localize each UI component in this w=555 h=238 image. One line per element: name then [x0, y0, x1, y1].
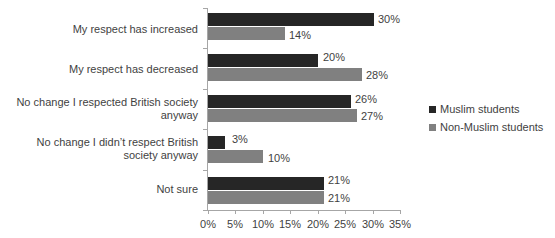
bar-nonmuslim-2	[208, 109, 357, 122]
y-axis-tick	[203, 210, 207, 211]
bar-nonmuslim-1	[208, 68, 362, 81]
x-axis-tick	[263, 210, 264, 214]
x-axis-tick-label-1: 5%	[227, 218, 243, 230]
x-axis-tick	[290, 210, 291, 214]
plot-area: 30% 14% 20% 28% 26% 27% 3% 10% 21% 21% 0…	[207, 8, 400, 210]
bar-value-nonmuslim-0: 14%	[289, 29, 311, 42]
x-axis-tick-label-4: 20%	[307, 218, 329, 230]
legend-label-1: Non-Muslim students	[440, 121, 543, 133]
bar-muslim-4	[208, 177, 324, 190]
x-axis-tick-label-5: 25%	[334, 218, 356, 230]
bar-value-nonmuslim-4: 21%	[328, 192, 350, 205]
chart-legend: Muslim students Non-Muslim students	[429, 100, 555, 136]
y-axis-tick	[203, 89, 207, 90]
category-label-4: Not sure	[0, 183, 198, 196]
bar-value-nonmuslim-1: 28%	[366, 69, 388, 82]
x-axis-line	[207, 210, 401, 211]
category-axis-labels: My respect has increased My respect has …	[0, 8, 202, 210]
x-axis-tick-label-7: 35%	[389, 218, 411, 230]
bar-value-nonmuslim-2: 27%	[361, 110, 383, 123]
x-axis-tick-label-3: 15%	[279, 218, 301, 230]
bar-value-nonmuslim-3: 10%	[268, 152, 290, 165]
x-axis-tick	[373, 210, 374, 214]
bar-value-muslim-2: 26%	[355, 93, 377, 106]
x-axis-tick-label-0: 0%	[200, 218, 216, 230]
x-axis-tick-label-2: 10%	[252, 218, 274, 230]
bar-value-muslim-4: 21%	[328, 174, 350, 187]
x-axis-tick	[235, 210, 236, 214]
category-label-0: My respect has increased	[0, 23, 198, 36]
y-axis-tick	[203, 8, 207, 9]
y-axis-tick	[203, 129, 207, 130]
bar-muslim-0	[208, 13, 374, 26]
y-axis-tick	[203, 170, 207, 171]
bar-value-muslim-0: 30%	[378, 13, 400, 26]
legend-label-0: Muslim students	[440, 103, 519, 115]
bar-muslim-3	[208, 136, 225, 149]
legend-item-non-muslim-students: Non-Muslim students	[429, 118, 555, 136]
category-label-2: No change I respected British society an…	[0, 96, 198, 122]
bar-nonmuslim-0	[208, 27, 285, 40]
bar-value-muslim-3: 3%	[232, 133, 248, 146]
legend-swatch-icon	[429, 106, 436, 113]
bar-muslim-1	[208, 54, 318, 67]
x-axis-tick	[400, 210, 401, 214]
y-axis-tick	[203, 48, 207, 49]
bar-muslim-2	[208, 95, 351, 108]
x-axis-tick	[345, 210, 346, 214]
bar-chart: My respect has increased My respect has …	[0, 0, 555, 238]
x-axis-tick	[318, 210, 319, 214]
category-label-3: No change I didn’t respect British socie…	[0, 136, 198, 162]
category-label-1: My respect has decreased	[0, 63, 198, 76]
x-axis-tick	[208, 210, 209, 214]
bar-value-muslim-1: 20%	[323, 51, 345, 64]
bar-nonmuslim-3	[208, 150, 263, 163]
legend-swatch-icon	[429, 124, 436, 131]
legend-item-muslim-students: Muslim students	[429, 100, 555, 118]
bar-nonmuslim-4	[208, 191, 324, 204]
x-axis-tick-label-6: 30%	[362, 218, 384, 230]
